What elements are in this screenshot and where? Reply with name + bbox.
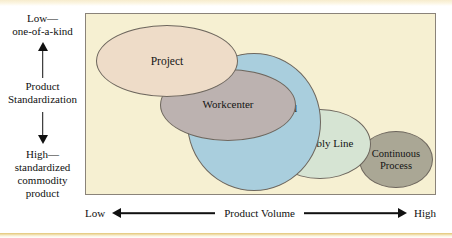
arrow-down-head <box>38 135 48 144</box>
product-process-matrix-figure: Low— one-of-a-kind Product Standardizati… <box>0 0 452 238</box>
y-axis-title: Product Standardization <box>8 80 77 106</box>
x-axis: Low Product Volume High <box>85 203 436 223</box>
arrow-right-head <box>398 208 407 218</box>
arrow-up-shaft <box>42 49 44 78</box>
arrow-right-shaft <box>304 212 398 214</box>
arrow-left-icon <box>112 208 215 219</box>
y-axis-top-label: Low— one-of-a-kind <box>12 12 72 38</box>
process-label-workcenter: Workcenter <box>202 99 253 111</box>
top-decorative-band <box>0 0 452 6</box>
x-axis-high-label: High <box>414 207 436 219</box>
arrow-right-icon <box>304 208 407 219</box>
arrow-left-shaft <box>121 212 215 214</box>
process-label-continuous-process: Continuous Process <box>360 148 432 170</box>
arrow-up-icon <box>37 42 48 74</box>
arrow-down-icon <box>37 112 48 144</box>
y-axis: Low— one-of-a-kind Product Standardizati… <box>0 10 85 200</box>
process-ellipse-project[interactable]: Project <box>96 25 238 97</box>
bottom-decorative-band <box>0 233 452 238</box>
plot-area: Project Workcenter Manufacturing Cell As… <box>85 13 436 195</box>
y-axis-bottom-label: High— standardized commodity product <box>15 148 71 200</box>
process-label-project: Project <box>151 55 184 67</box>
x-axis-low-label: Low <box>85 207 105 219</box>
arrow-left-head <box>112 208 121 218</box>
x-axis-title: Product Volume <box>222 207 297 219</box>
